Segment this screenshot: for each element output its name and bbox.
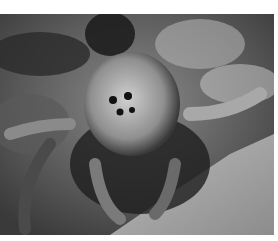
spider-illustration [0, 14, 274, 235]
spider-photo [0, 14, 274, 235]
